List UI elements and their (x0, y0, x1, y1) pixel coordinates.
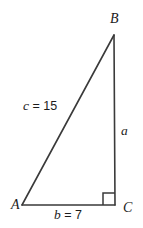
side-leg-bc (114, 35, 115, 205)
right-angle-marker-icon (103, 193, 115, 205)
triangle-svg (0, 0, 143, 228)
vertex-label-c: C (123, 201, 132, 215)
side-variable-a: a (121, 123, 128, 138)
vertex-label-b: B (110, 12, 119, 26)
side-label-hypotenuse: c = 15 (23, 99, 57, 113)
side-separator-c: = (29, 99, 43, 113)
side-separator-b: = (61, 208, 75, 222)
side-value-c: 15 (43, 99, 57, 113)
triangle-figure: B A C c = 15 a b = 7 (0, 0, 143, 228)
vertex-label-a: A (11, 198, 20, 212)
side-value-b: 7 (75, 208, 82, 222)
side-label-horizontal-leg: b = 7 (54, 208, 82, 222)
side-variable-b: b (54, 207, 61, 222)
side-hypotenuse-ab (22, 35, 114, 205)
side-label-vertical-leg: a (121, 124, 128, 138)
